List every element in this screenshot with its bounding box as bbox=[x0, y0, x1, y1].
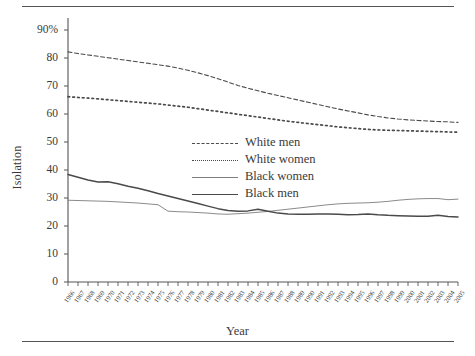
legend-item-white-women: White women bbox=[192, 151, 315, 168]
bottom-rule bbox=[22, 341, 454, 342]
y-tick-label: 20 bbox=[18, 219, 58, 231]
figure-page: Isolation Year 0102030405060708090% 1966… bbox=[0, 0, 475, 356]
legend-label: White women bbox=[245, 152, 315, 167]
thick-solid-line-key bbox=[192, 189, 238, 199]
chart-legend: White men White women Black women Black … bbox=[192, 134, 315, 202]
legend-label: Black women bbox=[245, 169, 314, 184]
legend-label: Black men bbox=[245, 186, 299, 201]
y-tick-label: 90% bbox=[18, 23, 58, 35]
thin-solid-line-key bbox=[192, 172, 238, 182]
legend-item-black-men: Black men bbox=[192, 185, 315, 202]
isolation-line-chart: Isolation Year 0102030405060708090% 1966… bbox=[0, 10, 475, 340]
y-tick-label: 50 bbox=[18, 135, 58, 147]
top-rule bbox=[22, 6, 454, 7]
legend-label: White men bbox=[245, 135, 300, 150]
legend-item-black-women: Black women bbox=[192, 168, 315, 185]
series-line bbox=[68, 97, 458, 133]
y-tick-label: 80 bbox=[18, 51, 58, 63]
y-tick-label: 0 bbox=[18, 275, 58, 287]
y-tick-label: 40 bbox=[18, 163, 58, 175]
dashed-line-key bbox=[192, 138, 238, 148]
dotted-line-key bbox=[192, 155, 238, 165]
y-tick-label: 70 bbox=[18, 79, 58, 91]
series-line bbox=[68, 52, 458, 123]
y-tick-label: 10 bbox=[18, 247, 58, 259]
y-tick-label: 60 bbox=[18, 107, 58, 119]
legend-item-white-men: White men bbox=[192, 134, 315, 151]
x-axis-label: Year bbox=[0, 324, 475, 339]
y-tick-label: 30 bbox=[18, 191, 58, 203]
